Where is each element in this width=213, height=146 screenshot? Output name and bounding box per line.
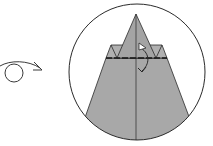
origami-diagram (0, 0, 213, 146)
magnified-view (69, 4, 205, 146)
paper-apex (117, 14, 156, 58)
turn-over-icon (0, 62, 42, 82)
paper-body (75, 58, 200, 146)
